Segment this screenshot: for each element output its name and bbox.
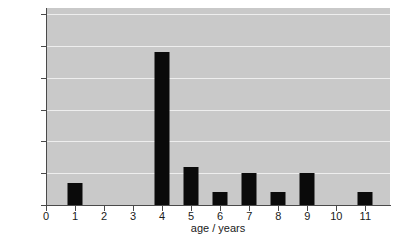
x-tick-label: 5 [176, 210, 206, 222]
x-tick-label: 2 [89, 210, 119, 222]
bars-group [46, 8, 390, 205]
bar [271, 192, 286, 205]
bar [213, 192, 228, 205]
plot-area [46, 8, 390, 205]
x-tick-label: 0 [31, 210, 61, 222]
y-tick-mark [41, 173, 46, 174]
x-axis-line [46, 205, 391, 206]
x-tick-label: 9 [292, 210, 322, 222]
x-tick-label: 6 [205, 210, 235, 222]
y-tick-mark [41, 141, 46, 142]
x-tick-label: 8 [263, 210, 293, 222]
x-tick-label: 10 [321, 210, 351, 222]
x-tick-label: 3 [118, 210, 148, 222]
x-tick-label: 4 [147, 210, 177, 222]
x-tick-label: 1 [60, 210, 90, 222]
bar [155, 52, 170, 205]
x-axis-title: age / years [46, 222, 390, 234]
bar [68, 183, 83, 205]
y-tick-mark [41, 46, 46, 47]
bar [242, 173, 257, 205]
x-tick-label: 7 [234, 210, 264, 222]
bar-chart-figure: 0102030405060 01234567891011 percentage … [0, 0, 400, 235]
bar [184, 167, 199, 205]
bar [300, 173, 315, 205]
y-axis-title: percentage of finches [0, 205, 14, 235]
bar [358, 192, 373, 205]
x-tick-label: 11 [350, 210, 380, 222]
y-tick-mark [41, 110, 46, 111]
y-tick-mark [41, 14, 46, 15]
y-tick-mark [41, 78, 46, 79]
y-axis-line [46, 8, 47, 206]
